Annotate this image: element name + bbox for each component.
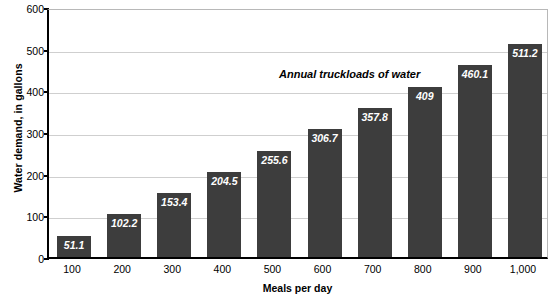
bar: 255.6 (257, 151, 291, 258)
y-tick-label: 200 (4, 170, 44, 182)
x-axis-ticks: 1002003004005006007008009001,000 (47, 263, 548, 279)
y-tick-label: 300 (4, 128, 44, 140)
x-tick-label: 500 (264, 263, 282, 275)
bar-value-label: 102.2 (107, 217, 141, 229)
x-tick-label: 300 (163, 263, 181, 275)
bar-value-label: 153.4 (157, 196, 191, 208)
bar-value-label: 255.6 (257, 154, 291, 166)
bar: 51.1 (57, 236, 91, 257)
y-tick-label: 400 (4, 86, 44, 98)
bar: 409 (408, 87, 442, 257)
x-tick-label: 800 (414, 263, 432, 275)
bar-chart: Water demand, in gallons 010020030040050… (0, 0, 555, 302)
bar-value-label: 51.1 (57, 239, 91, 251)
bars-layer: 51.1102.2153.4204.5255.6306.7357.8409460… (49, 10, 547, 257)
bar-value-label: 511.2 (508, 47, 542, 59)
bar: 153.4 (157, 193, 191, 257)
y-tick-label: 0 (4, 253, 44, 265)
x-tick-label: 400 (214, 263, 232, 275)
bar: 306.7 (308, 129, 342, 257)
bar: 357.8 (358, 108, 392, 257)
bar-value-label: 204.5 (207, 175, 241, 187)
x-tick-label: 600 (314, 263, 332, 275)
x-tick-label: 100 (63, 263, 81, 275)
bar: 204.5 (207, 172, 241, 257)
bar: 511.2 (508, 44, 542, 257)
y-tick-label: 100 (4, 211, 44, 223)
bar-value-label: 357.8 (358, 111, 392, 123)
x-tick-label: 200 (113, 263, 131, 275)
x-tick-label: 700 (364, 263, 382, 275)
plot-area: 51.1102.2153.4204.5255.6306.7357.8409460… (47, 9, 548, 259)
bar-value-label: 306.7 (308, 132, 342, 144)
y-axis-ticks: 0100200300400500600 (0, 9, 44, 259)
bar-value-label: 460.1 (458, 68, 492, 80)
bar-value-label: 409 (408, 90, 442, 102)
x-tick-label: 1,000 (510, 263, 536, 275)
x-axis-title: Meals per day (47, 282, 548, 294)
y-tick-label: 500 (4, 45, 44, 57)
bar: 102.2 (107, 214, 141, 257)
chart-annotation: Annual truckloads of water (279, 68, 420, 80)
bar: 460.1 (458, 65, 492, 257)
x-tick-label: 900 (464, 263, 482, 275)
y-tick-label: 600 (4, 3, 44, 15)
